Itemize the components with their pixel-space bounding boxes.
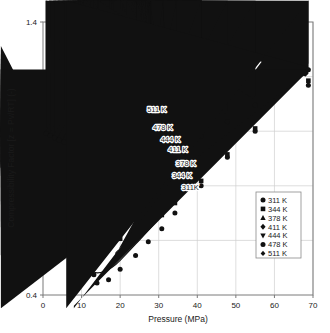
x-tick-label: 50 [231,301,240,310]
series-label: 344 K [172,171,192,180]
data-point [146,239,151,244]
series-label: 444 K [161,135,181,144]
data-point [57,137,62,142]
data-point [48,133,53,138]
x-tick-label: 30 [154,301,163,310]
legend[interactable]: 311 K344 K378 K411 K444 K478 K511 K [256,192,301,258]
data-point [306,83,311,88]
x-tick-label: 10 [77,301,86,310]
series-label: 478 K [153,123,173,132]
x-tick-label: 70 [309,301,318,310]
data-point [172,211,177,216]
data-point [306,78,311,83]
data-point [62,140,67,145]
legend-marker-circle-icon [261,198,266,203]
x-axis-title: Pressure (MPa) [148,314,208,324]
legend-item-label: 511 K [268,249,287,258]
legend-marker-square-icon [261,207,266,212]
x-tick-label: 20 [116,301,125,310]
legend-item-label: 311 K [268,196,287,205]
series-label: 311K [182,183,199,192]
series-label: 378 K [176,159,196,168]
data-point [44,131,49,136]
legend-item-label: 411 K [268,223,287,232]
data-point [133,253,138,258]
y-tick-label: 1.4 [26,18,38,27]
y-axis-title: Compressibility Factor [z = Pv/RT] (-) [6,88,16,228]
series-label: 411 K [168,145,187,154]
data-point [106,277,111,282]
x-tick-label: 40 [193,301,202,310]
x-tick-label: 60 [270,301,279,310]
chart-canvas: 010203040506070 0.40.60.811.21.4 311K311… [0,0,330,333]
data-point [118,267,123,272]
data-point [225,119,230,124]
legend-item-label: 344 K [268,205,288,214]
data-point [306,67,311,72]
x-tick-label: 0 [41,301,46,310]
data-point [199,183,204,188]
data-point [159,226,164,231]
data-point [253,103,258,108]
legend-marker-circle-icon [261,242,266,247]
compressibility-factor-chart: 010203040506070 0.40.60.811.21.4 311K311… [0,0,330,333]
series-label: 511 K [147,105,166,114]
legend-item-label: 444 K [268,231,288,240]
data-point [253,126,258,131]
legend-item-label: 478 K [268,240,288,249]
y-tick-label: 0.4 [26,291,38,300]
legend-item-label: 378 K [268,214,288,223]
